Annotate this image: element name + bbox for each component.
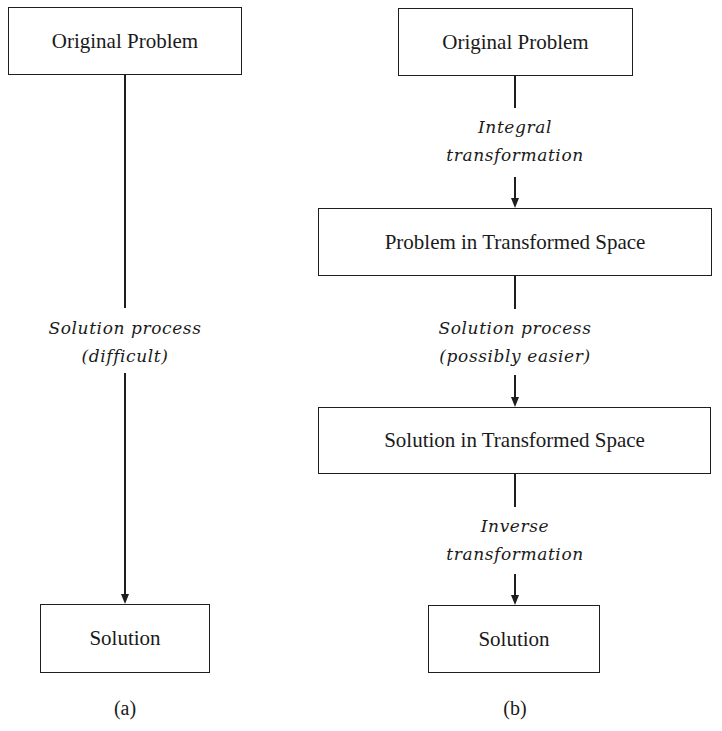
arrow-head-icon: [511, 595, 519, 605]
box-problem-transformed-space: Problem in Transformed Space: [318, 208, 712, 276]
box-label: Solution in Transformed Space: [384, 428, 645, 453]
box-label: Original Problem: [52, 29, 198, 54]
edge-label-integral-transformation: Integral transformation: [415, 113, 615, 169]
caption-a: (a): [100, 697, 150, 720]
box-label: Solution: [89, 626, 160, 651]
box-label: Original Problem: [442, 30, 588, 55]
connector-line: [514, 474, 516, 507]
box-label: Problem in Transformed Space: [385, 230, 646, 255]
connector-line: [514, 276, 516, 309]
caption-b: (b): [490, 697, 540, 720]
arrow-head-icon: [511, 397, 519, 407]
connector-line: [514, 375, 516, 398]
connector-line: [514, 76, 516, 108]
connector-line: [514, 177, 516, 199]
connector-line: [124, 75, 126, 308]
edge-label-inverse-transformation: Inverse transformation: [415, 512, 615, 568]
box-solution-transformed-space: Solution in Transformed Space: [318, 407, 711, 474]
arrow-head-icon: [121, 594, 129, 604]
connector-line: [514, 574, 516, 596]
edge-label-solution-process-difficult: Solution process (difficult): [25, 314, 225, 370]
box-original-problem-b: Original Problem: [398, 8, 633, 76]
connector-line: [124, 373, 126, 595]
box-solution-b: Solution: [428, 605, 600, 673]
box-solution-a: Solution: [40, 604, 210, 673]
box-original-problem-a: Original Problem: [8, 7, 242, 75]
box-label: Solution: [478, 627, 549, 652]
arrow-head-icon: [511, 198, 519, 208]
edge-label-solution-process-easier: Solution process (possibly easier): [395, 314, 635, 370]
